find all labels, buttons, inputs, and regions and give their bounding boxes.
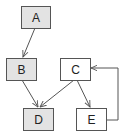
node-e[interactable]: E (77, 109, 107, 131)
node-a[interactable]: A (22, 7, 51, 29)
directed-graph-diagram: A B C D E (0, 0, 128, 135)
edge-b-to-d (22, 80, 38, 107)
node-d[interactable]: D (24, 109, 54, 131)
node-a-label: A (32, 11, 40, 25)
node-e-label: E (87, 113, 95, 127)
edge-c-to-d (40, 80, 74, 107)
node-b-label: B (17, 63, 25, 77)
node-c[interactable]: C (61, 59, 91, 81)
node-b[interactable]: B (7, 59, 37, 81)
node-d-label: D (34, 113, 43, 127)
edge-a-to-b (23, 28, 35, 57)
edge-c-to-e (77, 80, 90, 107)
node-c-label: C (71, 63, 80, 77)
